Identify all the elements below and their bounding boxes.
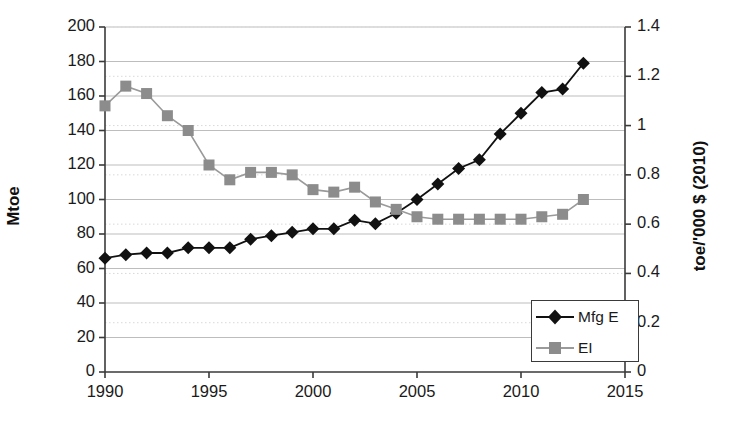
y-axis-right-tick: 0 — [637, 361, 683, 380]
data-point — [308, 184, 319, 195]
data-point — [432, 214, 443, 225]
data-point — [203, 241, 216, 254]
data-point — [286, 226, 299, 239]
data-series-layer — [99, 57, 590, 265]
data-point — [349, 182, 360, 193]
y-axis-left-tick: 0 — [49, 361, 95, 380]
legend-marker-diamond-icon — [532, 305, 578, 329]
y-axis-left-tick: 20 — [49, 327, 95, 346]
legend-item-ei: EI — [532, 332, 638, 363]
data-point — [224, 174, 235, 185]
data-point — [536, 211, 547, 222]
data-point — [182, 241, 195, 254]
y-axis-left-tick: 160 — [49, 85, 95, 104]
y-axis-left-tick: 80 — [49, 223, 95, 242]
data-point — [474, 214, 485, 225]
x-axis-tick: 1990 — [75, 382, 135, 401]
x-axis-tick: 2005 — [387, 382, 447, 401]
data-point — [100, 100, 111, 111]
y-axis-left-tick: 120 — [49, 154, 95, 173]
data-point — [140, 246, 153, 259]
legend-item-mfg-e: Mfg E — [532, 301, 638, 332]
y-axis-left-tick: 140 — [49, 120, 95, 139]
y-axis-right-tick: 0.4 — [637, 262, 683, 281]
y-axis-right-tick: 0.2 — [637, 312, 683, 331]
data-point — [578, 194, 589, 205]
data-point — [516, 214, 527, 225]
data-point — [265, 229, 278, 242]
data-point — [245, 167, 256, 178]
data-point — [183, 125, 194, 136]
y-axis-left-tick: 40 — [49, 292, 95, 311]
y-axis-right-tick: 0.8 — [637, 164, 683, 183]
data-point — [391, 204, 402, 215]
data-point — [369, 217, 382, 230]
data-point — [141, 88, 152, 99]
data-point — [266, 167, 277, 178]
data-point — [411, 193, 424, 206]
data-point — [495, 214, 506, 225]
x-axis-tick: 2000 — [283, 382, 343, 401]
data-point — [287, 169, 298, 180]
y-axis-left-tick: 200 — [49, 16, 95, 35]
y-axis-right-tick: 0.6 — [637, 213, 683, 232]
x-axis-tick: 2010 — [491, 382, 551, 401]
legend-label-ei: EI — [578, 339, 593, 357]
data-point — [348, 214, 361, 227]
chart-container: Mtoe toe/'000 $ (2010) 02040608010012014… — [0, 0, 751, 431]
data-point — [99, 252, 112, 265]
data-point — [412, 211, 423, 222]
data-point — [453, 214, 464, 225]
legend-label-mfg-e: Mfg E — [578, 308, 618, 326]
y-axis-right-tick: 1.4 — [637, 16, 683, 35]
y-axis-left-tick: 60 — [49, 258, 95, 277]
data-point — [161, 246, 174, 259]
data-point — [223, 241, 236, 254]
gridlines — [105, 27, 625, 338]
data-point — [204, 160, 215, 171]
y-axis-right-tick: 1 — [637, 115, 683, 134]
legend: Mfg E EI — [531, 300, 639, 362]
x-axis-tick: 1995 — [179, 382, 239, 401]
x-axis-tick: 2015 — [595, 382, 655, 401]
data-point — [244, 233, 257, 246]
data-point — [120, 81, 131, 92]
y-axis-left-tick: 180 — [49, 51, 95, 70]
y-axis-left-tick: 100 — [49, 189, 95, 208]
y-axis-right-tick: 1.2 — [637, 65, 683, 84]
data-point — [119, 248, 132, 261]
data-point — [452, 162, 465, 175]
data-point — [557, 209, 568, 220]
data-point — [328, 187, 339, 198]
data-point — [370, 196, 381, 207]
data-point — [162, 110, 173, 121]
data-point — [431, 177, 444, 190]
legend-marker-square-icon — [532, 336, 578, 360]
